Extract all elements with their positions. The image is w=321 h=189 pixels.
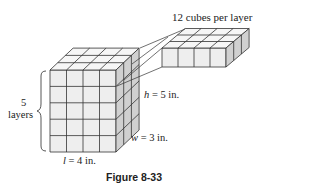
layer-count-label: 12 cubes per layer: [172, 12, 252, 23]
length-label: l = 4 in.: [63, 156, 96, 167]
figure-caption: Figure 8-33: [106, 172, 162, 183]
width-var: w: [131, 132, 138, 143]
length-value: = 4 in.: [66, 155, 96, 166]
layers-word: layers: [8, 110, 33, 121]
single-layer-slab: [162, 29, 249, 68]
height-value: = 5 in.: [149, 89, 179, 100]
prism-5-layers: [50, 48, 139, 152]
width-label: w = 3 in.: [131, 133, 168, 144]
width-value: = 3 in.: [138, 132, 168, 143]
layers-brace: [37, 71, 46, 151]
layers-number: 5: [21, 98, 26, 109]
height-label: h = 5 in.: [144, 90, 179, 101]
